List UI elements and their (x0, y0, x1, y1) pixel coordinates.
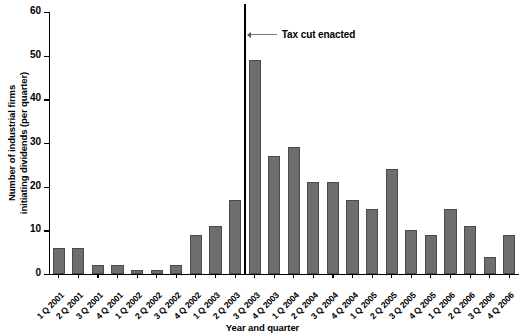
x-axis-tick (332, 274, 333, 278)
y-axis-tick: 60 (44, 12, 49, 13)
x-axis-tick (156, 274, 157, 278)
x-axis-tick (215, 274, 216, 278)
y-axis-tick: 50 (44, 56, 49, 57)
x-axis-tick (313, 274, 314, 278)
y-axis-tick: 0 (44, 274, 49, 275)
bar (444, 209, 456, 275)
bar (229, 200, 241, 274)
y-axis-tick: 30 (44, 143, 49, 144)
bar (366, 209, 378, 275)
bar (170, 265, 182, 274)
x-axis-tick (293, 274, 294, 278)
plot-area: 0102030405060 1 Q 20012 Q 20013 Q 20014 … (49, 12, 519, 274)
x-axis-tick (254, 274, 255, 278)
bar (111, 265, 123, 274)
y-axis-tick: 40 (44, 99, 49, 100)
x-axis-tick (78, 274, 79, 278)
bar (288, 147, 300, 274)
x-axis-tick (235, 274, 236, 278)
bar (209, 226, 221, 274)
y-axis-tick: 10 (44, 230, 49, 231)
bar (464, 226, 476, 274)
arrow-left-icon (247, 32, 251, 38)
x-axis-tick (274, 274, 275, 278)
x-axis-tick (117, 274, 118, 278)
bar (268, 156, 280, 274)
x-axis-tick (450, 274, 451, 278)
y-axis-tick-label: 10 (30, 223, 41, 235)
y-axis-tick-label: 50 (30, 49, 41, 61)
x-axis-tick (430, 274, 431, 278)
x-axis-tick (489, 274, 490, 278)
chart-figure: Number of industrial firms initiating di… (0, 0, 525, 334)
bar (405, 230, 417, 274)
tax-cut-event-line (244, 4, 246, 274)
bar (503, 235, 515, 274)
leader-line (251, 34, 277, 35)
bar (72, 248, 84, 274)
x-axis-title: Year and quarter (0, 322, 525, 333)
y-axis-tick-label: 40 (30, 92, 41, 104)
x-axis-tick (470, 274, 471, 278)
x-axis-tick (58, 274, 59, 278)
x-axis-line (49, 274, 519, 275)
tax-cut-annotation: Tax cut enacted (247, 29, 355, 40)
bar (307, 182, 319, 274)
y-axis-tick-label: 60 (30, 5, 41, 17)
bar (92, 265, 104, 274)
x-axis-tick (352, 274, 353, 278)
y-axis-tick-label: 0 (35, 267, 41, 279)
x-axis-tick (137, 274, 138, 278)
y-axis-tick-label: 30 (30, 136, 41, 148)
bar (327, 182, 339, 274)
y-axis-line (49, 12, 50, 274)
y-axis-title-line-1: Number of industrial firms (6, 85, 18, 201)
x-axis-tick (509, 274, 510, 278)
x-axis-tick (372, 274, 373, 278)
bar (151, 270, 163, 274)
x-axis-tick (176, 274, 177, 278)
bar (131, 270, 143, 274)
x-axis-tick (411, 274, 412, 278)
x-axis-tick (195, 274, 196, 278)
x-axis-tick (97, 274, 98, 278)
y-axis-tick: 20 (44, 187, 49, 188)
bar (484, 257, 496, 274)
tax-cut-annotation-label: Tax cut enacted (282, 29, 355, 40)
bar (425, 235, 437, 274)
bar (386, 169, 398, 274)
y-axis-title-line-2: initiating dividends (per quarter) (18, 72, 30, 214)
y-axis-tick-label: 20 (30, 180, 41, 192)
bar (190, 235, 202, 274)
bar (53, 248, 65, 274)
bar (249, 60, 261, 274)
bar (346, 200, 358, 274)
x-axis-tick (391, 274, 392, 278)
